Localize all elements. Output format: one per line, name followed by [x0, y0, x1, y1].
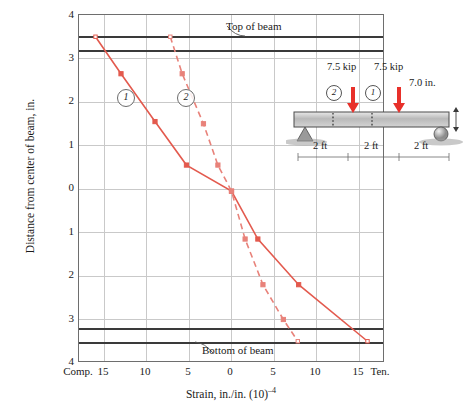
y-tick-3-bottom: 3 [56, 313, 74, 324]
data-point [256, 237, 260, 241]
data-point [153, 119, 157, 123]
load-arrow-right [393, 87, 405, 113]
x-tick-ten: Ten. [358, 366, 402, 377]
data-point [119, 72, 123, 76]
y-tick-3-top: 3 [56, 52, 74, 63]
data-point [229, 189, 233, 193]
x-tick-m15: 15 [81, 366, 125, 377]
data-point [366, 340, 369, 343]
depth-label: 7.0 in. [409, 77, 436, 88]
data-point [169, 35, 172, 38]
load-label-right: 7.5 kip [374, 61, 403, 72]
data-point [201, 122, 205, 126]
data-point [281, 317, 285, 321]
y-axis-title: Distance from center of beam, in. [24, 66, 36, 286]
span-label-3: 2 ft [414, 140, 428, 151]
y-tick-2-top: 2 [56, 95, 74, 106]
gage-badge-2: 2 [326, 85, 342, 101]
gage-badge-1: 1 [365, 85, 381, 101]
data-point [184, 163, 188, 167]
y-axis-tick-labels: 4 3 2 1 0 1 2 3 4 [52, 0, 74, 410]
y-tick-1-top: 1 [56, 139, 74, 150]
beam-diagram-svg [286, 61, 464, 167]
data-point [180, 72, 184, 76]
y-tick-2-bottom: 2 [56, 269, 74, 280]
load-label-left: 7.5 kip [327, 61, 356, 72]
x-tick-m10: 10 [123, 366, 167, 377]
curve-2-points [169, 35, 300, 343]
x-tick-m5: 5 [166, 366, 210, 377]
y-tick-4-top: 4 [56, 9, 74, 20]
x-tick-p5: 5 [251, 366, 295, 377]
plot-area: 1 2 [78, 14, 384, 362]
y-tick-1-bottom: 1 [56, 226, 74, 237]
span-dimension-line [298, 153, 449, 161]
x-tick-0: 0 [208, 366, 252, 377]
depth-dimension [453, 107, 459, 132]
y-tick-0: 0 [56, 182, 74, 193]
load-arrow-left [347, 87, 359, 113]
span-label-1: 2 ft [313, 140, 327, 151]
x-axis-title-text: Strain, in./in. (10)–4 [186, 388, 276, 400]
x-axis-title: Strain, in./in. (10)–4 [78, 386, 384, 400]
data-point [216, 163, 220, 167]
beam-diagram-inset: 7.5 kip 7.5 kip 2 1 7.0 in. 2 ft 2 ft 2 … [286, 61, 464, 167]
x-tick-p10: 10 [293, 366, 337, 377]
span-label-2: 2 ft [364, 140, 378, 151]
data-point [243, 237, 247, 241]
x-axis-tick-labels: Comp. 15 10 5 0 5 10 15 Ten. [0, 366, 389, 382]
curve-2-badge: 2 [177, 89, 195, 107]
data-point [261, 283, 265, 287]
data-point [297, 283, 301, 287]
data-point [296, 340, 299, 343]
curve-1-badge: 1 [117, 89, 135, 107]
annotation-bottom-of-beam: Bottom of beam [202, 344, 274, 356]
data-point [94, 35, 97, 38]
annotation-top-of-beam: Top of beam [226, 20, 281, 32]
